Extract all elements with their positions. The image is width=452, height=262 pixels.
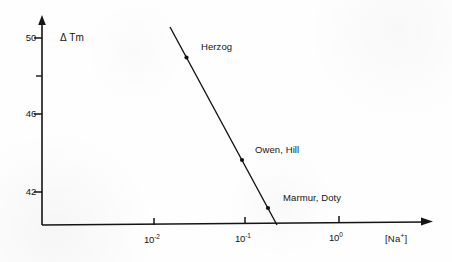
- annotation-herzog: Herzog: [201, 42, 232, 52]
- annotation-owen-hill: Owen, Hill: [255, 145, 299, 155]
- axis-arrow-up-icon: [38, 15, 46, 25]
- y-tick-label-42: 42: [18, 187, 36, 197]
- x-axis-title: [Na+]: [385, 234, 407, 244]
- x-tick-exponent: -2: [154, 233, 159, 240]
- axis-arrow-right-icon: [421, 217, 433, 225]
- x-axis-title-suffix: ]: [404, 233, 407, 244]
- x-tick-label-1e-2: 10-2: [144, 235, 160, 245]
- x-tick-mantissa: 10: [329, 232, 339, 243]
- data-point-marmur-doty: [266, 206, 270, 210]
- x-tick-label-1e-1: 10-1: [235, 234, 251, 244]
- x-tick-exponent: 0: [339, 231, 342, 238]
- x-tick-exponent: -1: [245, 232, 250, 239]
- y-tick-label-50: 50: [18, 33, 36, 43]
- x-tick-label-1e0: 100: [329, 233, 343, 243]
- x-axis-line: [42, 222, 424, 225]
- y-axis-title: Δ Tm: [60, 33, 84, 43]
- x-axis-title-prefix: [Na: [385, 233, 400, 244]
- data-point-owen-hill: [240, 158, 244, 162]
- y-tick-label-46: 46: [18, 109, 36, 119]
- x-tick-mantissa: 10: [144, 234, 154, 245]
- x-tick-mantissa: 10: [235, 233, 245, 244]
- figure-canvas: 50 46 42 Δ Tm 10-2 10-1 100 [Na+] Herzog…: [0, 0, 452, 262]
- annotation-marmur-doty: Marmur, Doty: [283, 193, 341, 203]
- data-point-herzog: [184, 55, 188, 59]
